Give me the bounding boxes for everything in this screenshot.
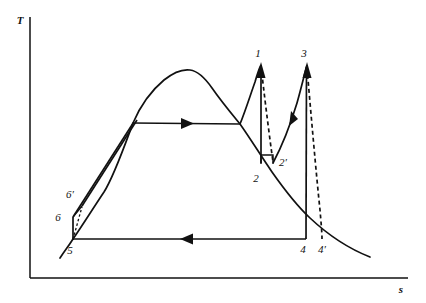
expansion-1-2p-actual-line	[261, 66, 273, 162]
point-label-2-prime: 2′	[279, 156, 288, 168]
ts-diagram: 1 2 2′ 3 4 4′ 5 6 6′ T s	[0, 0, 426, 303]
boiler-flow-arrow-icon	[181, 118, 194, 129]
feed-line-6p-to-dome	[82, 120, 137, 206]
condenser-flow-arrow-icon	[180, 234, 193, 245]
expansion-1-2-group	[257, 62, 266, 163]
expansion-3-4-group	[306, 67, 307, 239]
ts-diagram-canvas: 1 2 2′ 3 4 4′ 5 6 6′ T s	[0, 0, 426, 303]
y-axis-label: T	[17, 14, 25, 26]
feed-line-6-to-dome	[73, 123, 134, 218]
x-axis-label: s	[398, 283, 403, 295]
point-label-4: 4	[300, 243, 306, 255]
point-label-6-prime: 6′	[66, 188, 75, 200]
expansion-3-4p-actual-line	[307, 68, 322, 239]
point-label-6: 6	[55, 211, 61, 223]
state-1-arrow-icon	[257, 62, 266, 78]
point-label-4-prime: 4′	[318, 243, 327, 255]
expansion-3-4p-group	[307, 68, 322, 239]
axis-labels-group: T s	[17, 14, 404, 295]
reheat-2p-to-3-line	[273, 65, 307, 163]
feedwater-lines-group	[73, 120, 137, 217]
expansion-3-4-ideal-line	[306, 67, 307, 239]
condensation-4-5-group	[73, 234, 306, 245]
boiler-isobar-group	[133, 118, 240, 129]
point-label-5: 5	[67, 244, 73, 256]
point-label-1: 1	[255, 47, 261, 59]
point-labels-group: 1 2 2′ 3 4 4′ 5 6 6′	[55, 47, 326, 256]
expansion-1-2p-group	[261, 66, 273, 162]
point-label-3: 3	[300, 47, 307, 59]
point-label-2: 2	[253, 172, 259, 184]
